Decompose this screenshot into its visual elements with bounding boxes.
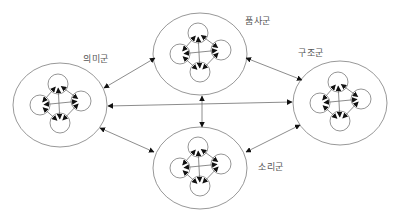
group-pos [153, 13, 247, 95]
internal-link [44, 101, 77, 104]
internal-link [43, 87, 56, 102]
internal-link [183, 36, 196, 51]
group-ellipse [13, 63, 107, 147]
node-circle [170, 158, 190, 178]
inter-group-links [100, 58, 302, 152]
link-meaning-pos [104, 58, 155, 88]
link-pos-structure [246, 58, 302, 80]
internal-link [324, 99, 357, 102]
internal-link [203, 167, 218, 183]
internal-link [343, 102, 358, 118]
network-diagram [0, 0, 396, 221]
node-circle [30, 95, 50, 115]
group-ellipse [293, 61, 387, 145]
group-sound [153, 127, 247, 209]
internal-link [183, 150, 196, 165]
internal-link [184, 50, 217, 53]
label-sound-group: 소리군 [258, 160, 284, 173]
node-circle [170, 44, 190, 64]
internal-link [203, 53, 218, 69]
internal-link [323, 85, 336, 100]
label-pos-group: 품사군 [245, 14, 271, 27]
groups-layer [13, 13, 387, 209]
group-meaning [13, 63, 107, 147]
link-meaning-sound [100, 128, 154, 152]
node-circle [310, 93, 330, 113]
link-structure-sound [246, 125, 300, 152]
group-structure [293, 61, 387, 145]
internal-link [63, 104, 78, 120]
label-structure-group: 구조군 [298, 46, 324, 59]
label-meaning-group: 의미군 [83, 52, 109, 65]
group-ellipse [153, 13, 247, 95]
group-ellipse [153, 127, 247, 209]
link-meaning-structure [108, 102, 292, 106]
internal-link [184, 164, 217, 167]
